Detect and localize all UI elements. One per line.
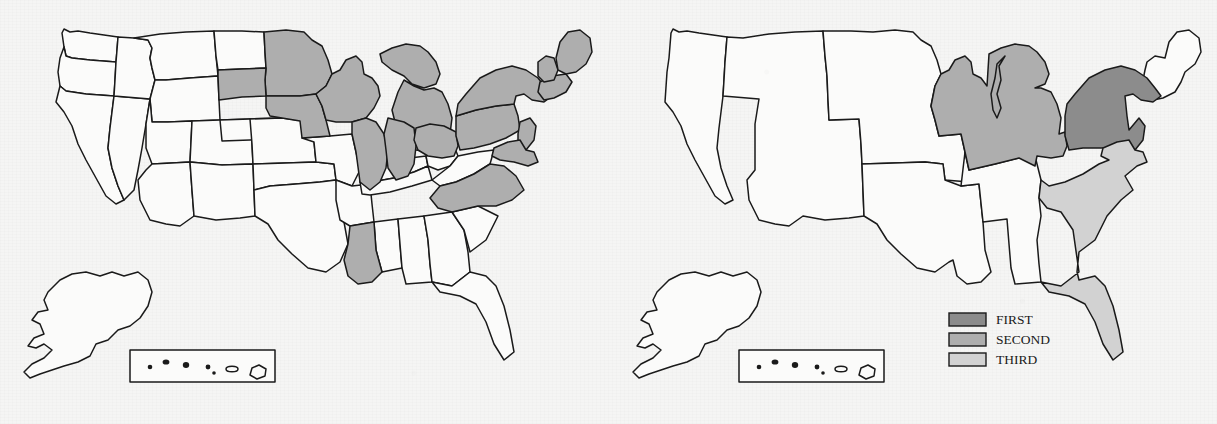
right-map: FIRST SECOND THIRD <box>609 0 1217 424</box>
state-southdakota <box>218 68 266 100</box>
legend-swatch-first <box>949 313 986 326</box>
state-minnesota <box>264 30 332 96</box>
state-ohio <box>414 124 458 158</box>
state-vermont-newhampshire <box>538 56 558 82</box>
inset-hawaii-island-maui <box>226 366 238 372</box>
legend-label-first: FIRST <box>996 312 1034 327</box>
inset-hawaii-island-big <box>250 365 266 379</box>
state-northdakota <box>214 31 266 70</box>
region-middle-atlantic <box>1065 66 1161 154</box>
legend-item-first: FIRST <box>949 312 1034 327</box>
state-wyoming <box>150 76 220 122</box>
left-map <box>0 0 608 424</box>
state-arizona <box>138 162 194 226</box>
legend-label-second: SECOND <box>996 332 1050 347</box>
legend: FIRST SECOND THIRD <box>949 312 1050 367</box>
state-idaho <box>114 37 155 99</box>
inset-hawaii-island-maui <box>835 366 847 372</box>
legend-swatch-second <box>949 333 986 346</box>
region-south-atlantic <box>1039 140 1147 360</box>
state-texas <box>254 180 348 272</box>
legend-swatch-third <box>949 353 986 366</box>
inset-hawaii-island-big <box>859 365 875 379</box>
region-pacific <box>665 29 733 204</box>
legend-label-third: THIRD <box>996 352 1037 367</box>
state-newmexico <box>190 162 255 220</box>
state-maine <box>556 30 592 74</box>
legend-item-second: SECOND <box>949 332 1050 347</box>
map-figure: FIRST SECOND THIRD <box>0 0 1217 424</box>
state-florida <box>432 272 514 360</box>
legend-item-third: THIRD <box>949 352 1037 367</box>
